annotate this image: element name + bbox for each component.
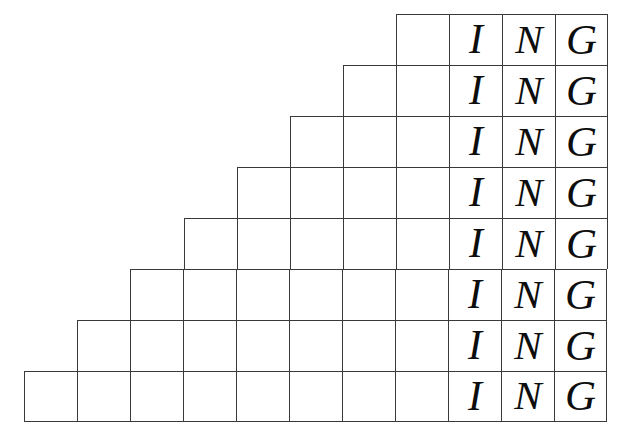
- grid-cell-blank: [395, 269, 448, 320]
- grid-cell-letter-I: I: [449, 14, 502, 65]
- grid-cell-blank: [343, 218, 396, 269]
- grid-cell-blank: [396, 65, 449, 116]
- grid-cell-letter-G: G: [554, 320, 607, 371]
- glyph-G: G: [565, 273, 596, 316]
- grid-cell-blank: [183, 269, 236, 320]
- grid-cell-letter-G: G: [554, 371, 607, 422]
- grid-cell-blank: [343, 116, 396, 167]
- grid-cell-blank: [236, 320, 289, 371]
- grid-cell-blank: [290, 167, 343, 218]
- grid-row: ING: [24, 371, 607, 422]
- glyph-G: G: [566, 69, 597, 112]
- glyph-N: N: [515, 70, 542, 111]
- grid-cell-blank: [289, 320, 342, 371]
- grid-cell-letter-G: G: [555, 218, 608, 269]
- grid-cell-blank: [183, 320, 236, 371]
- grid-cell-letter-G: G: [555, 14, 608, 65]
- grid-cell-blank: [290, 116, 343, 167]
- grid-row: ING: [343, 65, 608, 116]
- grid-row: ING: [396, 14, 608, 65]
- grid-row: ING: [290, 116, 608, 167]
- grid-cell-letter-N: N: [502, 167, 555, 218]
- glyph-N: N: [514, 375, 541, 416]
- grid-cell-letter-N: N: [502, 65, 555, 116]
- grid-cell-blank: [77, 371, 130, 422]
- glyph-I: I: [469, 171, 483, 213]
- glyph-G: G: [565, 324, 596, 367]
- grid-cell-letter-I: I: [449, 116, 502, 167]
- glyph-G: G: [565, 374, 596, 417]
- grid-cell-blank: [183, 371, 236, 422]
- grid-cell-letter-N: N: [502, 218, 555, 269]
- glyph-I: I: [468, 324, 482, 366]
- glyph-G: G: [566, 120, 597, 163]
- grid-cell-letter-N: N: [501, 371, 554, 422]
- grid-cell-letter-N: N: [502, 14, 555, 65]
- glyph-N: N: [515, 223, 542, 264]
- grid-cell-blank: [77, 320, 130, 371]
- grid-cell-blank: [130, 269, 183, 320]
- grid-cell-letter-G: G: [555, 116, 608, 167]
- grid-cell-blank: [396, 14, 449, 65]
- grid-cell-blank: [184, 218, 237, 269]
- grid-cell-blank: [290, 218, 343, 269]
- glyph-N: N: [515, 172, 542, 213]
- grid-row: ING: [237, 167, 608, 218]
- glyph-N: N: [514, 274, 541, 315]
- grid-cell-blank: [24, 371, 77, 422]
- grid-cell-blank: [236, 371, 289, 422]
- grid-row: ING: [130, 269, 607, 320]
- grid-cell-blank: [237, 167, 290, 218]
- grid-cell-letter-I: I: [448, 269, 501, 320]
- glyph-I: I: [469, 18, 483, 60]
- glyph-I: I: [468, 375, 482, 417]
- grid-cell-blank: [342, 320, 395, 371]
- grid-cell-blank: [289, 371, 342, 422]
- grid-cell-blank: [342, 371, 395, 422]
- grid-row: ING: [184, 218, 608, 269]
- glyph-I: I: [468, 273, 482, 315]
- grid-cell-blank: [343, 65, 396, 116]
- grid-cell-letter-G: G: [555, 167, 608, 218]
- glyph-G: G: [566, 171, 597, 214]
- grid-cell-blank: [343, 167, 396, 218]
- grid-cell-letter-N: N: [501, 320, 554, 371]
- grid-cell-blank: [237, 218, 290, 269]
- glyph-I: I: [469, 120, 483, 162]
- grid-cell-blank: [236, 269, 289, 320]
- grid-cell-letter-I: I: [449, 65, 502, 116]
- glyph-N: N: [514, 325, 541, 366]
- glyph-G: G: [566, 222, 597, 265]
- glyph-N: N: [515, 121, 542, 162]
- grid-cell-blank: [396, 116, 449, 167]
- grid-cell-blank: [396, 218, 449, 269]
- grid-cell-letter-G: G: [555, 65, 608, 116]
- grid-cell-letter-I: I: [449, 167, 502, 218]
- grid-cell-blank: [130, 320, 183, 371]
- grid-row: ING: [77, 320, 607, 371]
- grid-cell-blank: [396, 167, 449, 218]
- glyph-I: I: [469, 222, 483, 264]
- glyph-I: I: [469, 69, 483, 111]
- grid-cell-blank: [130, 371, 183, 422]
- grid-cell-letter-G: G: [554, 269, 607, 320]
- grid-cell-letter-N: N: [501, 269, 554, 320]
- grid-cell-blank: [395, 320, 448, 371]
- grid-cell-letter-I: I: [448, 371, 501, 422]
- grid-cell-blank: [342, 269, 395, 320]
- grid-cell-letter-N: N: [502, 116, 555, 167]
- grid-cell-letter-I: I: [449, 218, 502, 269]
- glyph-G: G: [566, 18, 597, 61]
- glyph-N: N: [515, 19, 542, 60]
- grid-cell-letter-I: I: [448, 320, 501, 371]
- grid-cell-blank: [395, 371, 448, 422]
- figure-canvas: INGINGINGINGINGINGINGING: [0, 0, 621, 436]
- grid-cell-blank: [289, 269, 342, 320]
